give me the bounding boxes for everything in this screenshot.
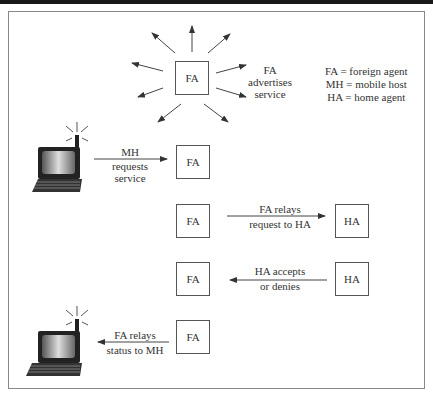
label-line: FA relays — [100, 329, 170, 341]
ha-box-accept: HA — [335, 262, 369, 296]
label-line: request to HA — [240, 218, 320, 230]
legend: FA = foreign agent MH = mobile host HA =… — [325, 65, 408, 104]
fa-relays-request-label: FA relays request to HA — [240, 203, 320, 230]
fa-relays-status-label: FA relays status to MH — [100, 329, 170, 356]
label-line: service — [106, 172, 154, 184]
legend-item-ha: HA = home agent — [325, 91, 408, 104]
ha-box-relay: HA — [335, 204, 369, 238]
laptop-icon-mobile-host-top — [32, 122, 88, 192]
label-line: or denies — [245, 280, 315, 292]
label-line: advertises — [246, 76, 294, 88]
fa-box-advertise: FA — [175, 61, 209, 95]
laptop-icon-mobile-host-bottom — [26, 306, 88, 376]
fa-advertises-label: FA advertises service — [246, 64, 294, 100]
diagram-lines — [0, 0, 433, 398]
legend-item-fa: FA = foreign agent — [325, 65, 408, 78]
fa-box-status: FA — [176, 320, 210, 354]
ha-accepts-label: HA accepts or denies — [245, 265, 315, 292]
mh-requests-label: MH requests service — [106, 146, 154, 184]
fa-box-accept: FA — [176, 262, 210, 296]
label-line: status to MH — [100, 344, 170, 356]
fa-box-request: FA — [176, 145, 210, 179]
label-line: FA — [246, 64, 294, 76]
label-line: HA accepts — [245, 265, 315, 277]
label-line: service — [246, 88, 294, 100]
fa-box-relay: FA — [176, 204, 210, 238]
legend-item-mh: MH = mobile host — [325, 78, 408, 91]
label-line: FA relays — [240, 203, 320, 215]
label-line: MH — [106, 146, 154, 158]
label-line: requests — [106, 160, 154, 172]
